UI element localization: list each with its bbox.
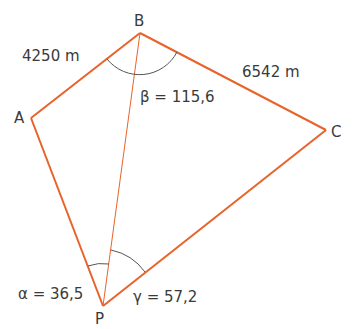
point-label-c: C	[331, 123, 341, 141]
point-label-p: P	[95, 310, 104, 328]
edge-ap	[31, 118, 103, 306]
angle-arc-beta	[107, 52, 177, 75]
distance-label-bc: 6542 m	[242, 63, 300, 81]
angle-label-beta: β = 115,6	[140, 88, 215, 106]
distance-label-ab: 4250 m	[22, 47, 80, 65]
angle-arc-gamma	[111, 250, 145, 272]
angle-arc-alpha	[88, 263, 109, 266]
triangulation-diagram: B A C P 4250 m 6542 m β = 115,6 α = 36,5…	[0, 0, 358, 329]
edge-ab	[31, 33, 140, 118]
point-label-b: B	[134, 12, 144, 30]
angle-label-gamma: γ = 57,2	[133, 288, 197, 306]
angle-label-alpha: α = 36,5	[18, 285, 83, 303]
point-label-a: A	[14, 109, 25, 127]
edge-bc	[140, 33, 326, 130]
edge-cp	[103, 130, 326, 306]
